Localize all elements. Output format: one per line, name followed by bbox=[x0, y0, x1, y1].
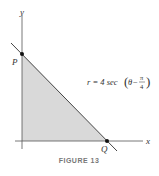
point-q bbox=[105, 139, 109, 143]
point-q-label: Q bbox=[101, 144, 108, 154]
figure-caption: FIGURE 13 bbox=[59, 157, 100, 164]
equation-minus: − bbox=[133, 77, 138, 87]
x-axis-label: x bbox=[145, 136, 150, 146]
equation-four: 4 bbox=[140, 83, 144, 90]
equation-label: r = 4 sec ( θ − π 4 ) bbox=[87, 74, 150, 90]
polar-line-diagram: y x P Q r = 4 sec ( θ − π 4 ) FIGURE 13 bbox=[0, 0, 159, 176]
equation-lhs: r = 4 sec bbox=[87, 77, 118, 87]
equation-close-paren: ) bbox=[146, 74, 150, 89]
equation-theta: θ bbox=[128, 77, 132, 87]
point-p-label: P bbox=[11, 57, 18, 67]
equation-pi: π bbox=[140, 74, 144, 81]
y-axis-label: y bbox=[19, 7, 24, 17]
point-p bbox=[20, 52, 24, 56]
